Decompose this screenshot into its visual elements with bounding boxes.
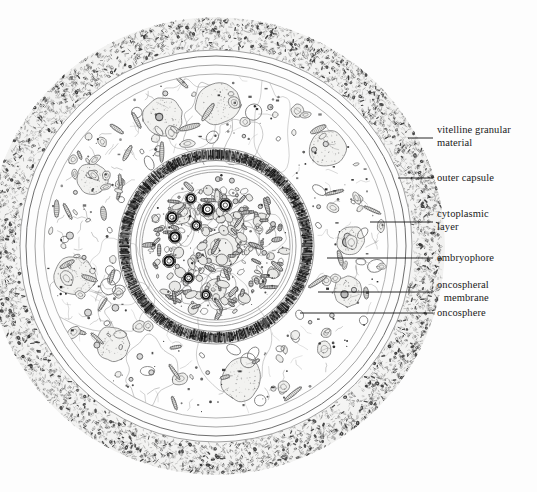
illustration-canvas [0, 0, 537, 492]
label-oncospheral-membrane: oncospheral membrane [437, 279, 489, 304]
label-embryophore: embryophore [437, 252, 494, 265]
label-vitelline-granular-material: vitelline granular material [437, 124, 511, 149]
label-oncosphere: oncosphere [437, 307, 486, 320]
egg-diagram-figure: vitelline granular material outer capsul… [0, 0, 537, 492]
label-outer-capsule: outer capsule [437, 172, 494, 185]
label-cytoplasmic-layer: cytoplasmic layer [437, 208, 489, 233]
